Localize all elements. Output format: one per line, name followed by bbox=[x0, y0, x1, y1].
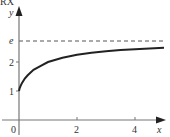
x-axis-label: x bbox=[156, 124, 162, 135]
x-tick-label-2: 2 bbox=[74, 124, 79, 135]
x-axis-arrow-icon bbox=[156, 117, 166, 124]
chart: RX 0 2 4 1 2 e y x bbox=[0, 0, 170, 137]
y-tick-label-e: e bbox=[9, 35, 14, 46]
y-tick-label-2: 2 bbox=[9, 57, 14, 68]
y-axis-label: y bbox=[8, 7, 14, 18]
y-tick-label-1: 1 bbox=[9, 86, 14, 97]
x-tick-label-4: 4 bbox=[132, 124, 137, 135]
x-tick-label-0: 0 bbox=[11, 124, 16, 135]
function-curve bbox=[19, 48, 164, 91]
corner-fragment: RX bbox=[0, 0, 15, 7]
y-axis-arrow-icon bbox=[16, 6, 23, 16]
